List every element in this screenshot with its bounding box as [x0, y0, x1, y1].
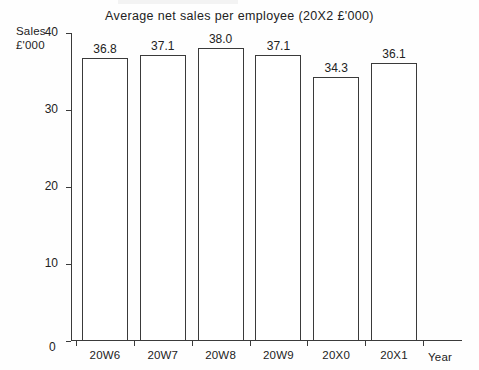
- y-axis-label-line-1: Sales: [16, 25, 46, 39]
- bar-value-label: 37.1: [151, 39, 174, 53]
- y-axis-line: [71, 33, 72, 341]
- x-axis-tick: [134, 341, 135, 346]
- bar-value-label: 34.3: [325, 61, 348, 75]
- y-axis-tick-label: 10: [45, 256, 58, 270]
- x-axis-tick: [365, 341, 366, 346]
- y-axis-tick: 10: [66, 264, 71, 265]
- x-axis-tick: [423, 341, 424, 346]
- x-axis-category-label: 20X1: [380, 349, 408, 361]
- chart-title: Average net sales per employee (20X2 £'0…: [0, 9, 479, 23]
- y-axis-tick: 20: [66, 187, 71, 188]
- y-axis-label: Sales £'000: [16, 25, 46, 52]
- y-axis-tick: [66, 341, 71, 342]
- bar: 36.1: [371, 63, 417, 341]
- x-axis-category-label: 20W6: [90, 349, 121, 361]
- y-axis-label-line-2: £'000: [16, 39, 46, 53]
- x-axis-category-label: 20W7: [147, 349, 178, 361]
- y-axis-tick-label: 40: [45, 25, 58, 39]
- bar-value-label: 36.8: [93, 42, 116, 56]
- y-axis-tick: 40: [66, 33, 71, 34]
- bar-chart-figure: Average net sales per employee (20X2 £'0…: [0, 0, 479, 370]
- bar: 37.1: [255, 55, 301, 341]
- bar-value-label: 38.0: [209, 32, 232, 46]
- bar-value-label: 36.1: [382, 47, 405, 61]
- x-axis-tick: [192, 341, 193, 346]
- y-axis-tick-label: 30: [45, 102, 58, 116]
- bar: 34.3: [313, 77, 359, 341]
- y-axis-tick: 30: [66, 110, 71, 111]
- bar: 36.8: [82, 58, 128, 341]
- x-axis-tick: [250, 341, 251, 346]
- plot-area: 10203040 36.837.138.037.134.336.1: [71, 33, 462, 341]
- x-axis-tick: [307, 341, 308, 346]
- bar: 38.0: [198, 48, 244, 341]
- bar-value-label: 37.1: [267, 39, 290, 53]
- x-axis-category-label: 20X0: [322, 349, 350, 361]
- x-axis-category-label: 20W8: [205, 349, 236, 361]
- x-axis-label: Year: [428, 351, 452, 363]
- x-axis-tick: [76, 341, 77, 346]
- scan-artifact: [118, 0, 238, 4]
- bar: 37.1: [140, 55, 186, 341]
- x-axis-category-label: 20W9: [263, 349, 294, 361]
- y-axis-tick-label: 20: [45, 179, 58, 193]
- y-axis-zero-label: 0: [49, 340, 56, 354]
